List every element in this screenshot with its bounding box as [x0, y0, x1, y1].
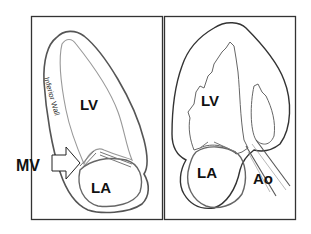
right-panel-frame [165, 17, 296, 220]
right-la-label: LA [197, 164, 217, 181]
right-aorta-label: Ao [253, 170, 273, 187]
right-outflow-region [251, 84, 274, 144]
echo-diagram: LV LA MV Inferior Wall LV LA Ao [0, 0, 311, 234]
mv-label: MV [16, 157, 40, 174]
left-la-label: LA [91, 179, 111, 196]
mv-arrow-icon [52, 147, 80, 179]
right-lv-label: LV [201, 92, 219, 109]
left-lv-label: LV [80, 96, 98, 113]
